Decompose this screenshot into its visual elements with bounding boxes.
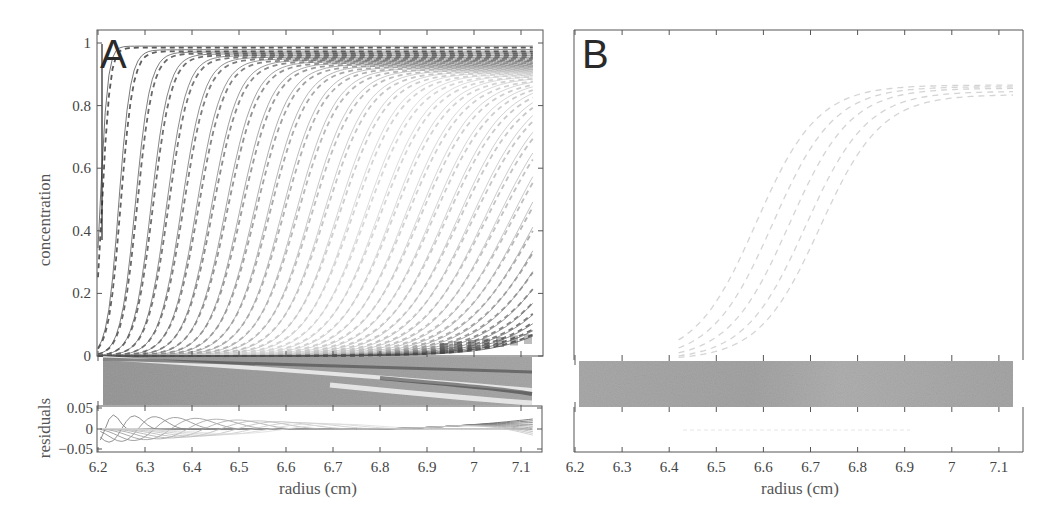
y-tick-label: 0 [84,348,92,364]
y-axis-label-residuals: residuals [35,398,54,458]
x-tick-label: 6.3 [136,459,155,475]
concentration-curves-a [98,44,533,356]
x-tick-label: 6.9 [895,459,914,475]
residual-bitmap-a [103,357,532,405]
panel-b: B 6.26.36.46.56.66.76.86.977.1 radius (c… [566,30,1023,498]
x-tick-label: 7 [948,459,956,475]
residual-bitmap-b [579,361,1013,407]
panel-a: concentration residuals 00.20.40.60.81 A… [35,30,543,498]
x-tick-label: 6.4 [660,459,679,475]
residual-plot-a: 0.050−0.05 [58,400,542,457]
x-tick-label: 7.1 [512,459,531,475]
residual-plot-b [574,407,1023,452]
plot-frame-b [574,30,1023,360]
x-tick-label: 6.5 [707,459,726,475]
residual-y-tick-label: 0 [86,421,94,437]
y-tick-label: 0.8 [72,98,91,114]
x-tick-label: 6.2 [566,459,585,475]
x-tick-label: 6.8 [848,459,867,475]
x-tick-label: 6.6 [754,459,773,475]
x-tick-label: 6.4 [183,459,202,475]
residual-y-tick-label: −0.05 [58,441,93,457]
y-tick-label: 1 [84,35,92,51]
x-tick-labels-b: 6.26.36.46.56.66.76.86.977.1 [566,459,1009,475]
residual-curves-a [100,415,533,442]
y-tick-label: 0.2 [72,285,91,301]
figure: concentration residuals 00.20.40.60.81 A… [0,0,1062,524]
panel-letter-b: B [582,32,609,76]
x-tick-label: 6.5 [230,459,249,475]
y-axis-label-concentration: concentration [35,173,54,266]
panel-letter-a: A [100,32,127,76]
x-tick-label: 6.8 [371,459,390,475]
x-axis-label-b: radius (cm) [761,479,839,498]
x-tick-label: 6.7 [801,459,820,475]
x-tick-label: 6.2 [89,459,108,475]
concentration-curves-b [679,85,1013,357]
y-tick-label: 0.4 [72,223,91,239]
x-tick-label: 6.9 [418,459,437,475]
residual-y-tick-label: 0.05 [67,400,93,416]
x-tick-label: 7 [470,459,478,475]
x-tick-label: 6.3 [613,459,632,475]
x-tick-label: 7.1 [990,459,1009,475]
x-tick-label: 6.6 [277,459,296,475]
x-tick-label: 6.7 [324,459,343,475]
x-axis-label-a: radius (cm) [279,479,357,498]
y-tick-label: 0.6 [72,160,91,176]
x-tick-labels-a: 6.26.36.46.56.66.76.86.977.1 [89,459,531,475]
